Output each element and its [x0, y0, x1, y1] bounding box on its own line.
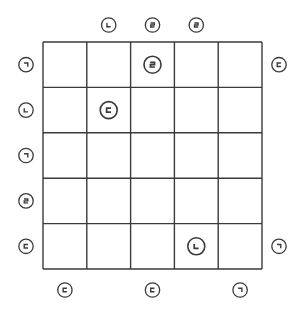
grid-cell-r5-c3[interactable] [132, 225, 174, 268]
grid-cell-r2-c1[interactable] [44, 88, 86, 131]
grid-cell-r4-c4[interactable] [175, 179, 217, 222]
grid-cell-r2-c4[interactable] [175, 88, 217, 131]
grid-cell-r1-c1[interactable] [44, 43, 86, 86]
cell-clue-rieul-icon: ㄹ [144, 56, 161, 73]
grid-cell-r3-c1[interactable] [44, 134, 86, 177]
grid-cell-r4-c1[interactable] [44, 179, 86, 222]
right-clue-digeut-icon: ㄷ [272, 57, 286, 71]
cell-clue-digeut-icon: ㄷ [100, 102, 117, 119]
left-clue-giyeok-icon: ㄱ [19, 57, 33, 71]
left-clue-digeut-icon: ㄷ [19, 239, 33, 253]
left-clue-nieun-icon: ㄴ [19, 103, 33, 117]
puzzle-board: ㄹㄷㄴㄴㄹㄹㄱㄴㄱㄹㄷㄷㄱㄷㄷㄱ [0, 0, 306, 316]
bottom-clue-digeut-icon: ㄷ [58, 283, 72, 297]
bottom-clue-giyeok-icon: ㄱ [233, 283, 247, 297]
grid-cell-r2-c3[interactable] [132, 88, 174, 131]
grid-cell-r5-c2[interactable] [88, 225, 130, 268]
grid-cell-r5-c5[interactable] [219, 225, 261, 268]
right-clue-giyeok-icon: ㄱ [272, 239, 286, 253]
left-clue-giyeok-icon: ㄱ [19, 148, 33, 162]
grid-cell-r4-c2[interactable] [88, 179, 130, 222]
grid-cell-r3-c5[interactable] [219, 134, 261, 177]
grid-cell-r1-c5[interactable] [219, 43, 261, 86]
grid-cell-r5-c1[interactable] [44, 225, 86, 268]
grid-cell-r3-c3[interactable] [132, 134, 174, 177]
bottom-clue-digeut-icon: ㄷ [145, 283, 159, 297]
grid-cell-r4-c5[interactable] [219, 179, 261, 222]
top-clue-rieul-icon: ㄹ [145, 18, 159, 32]
grid-cell-r1-c2[interactable] [88, 43, 130, 86]
grid-cell-r3-c4[interactable] [175, 134, 217, 177]
grid-cell-r1-c4[interactable] [175, 43, 217, 86]
top-clue-rieul-icon: ㄹ [189, 18, 203, 32]
grid-cell-r4-c3[interactable] [132, 179, 174, 222]
grid-cell-layer[interactable] [44, 43, 261, 268]
cell-clue-nieun-icon: ㄴ [188, 238, 205, 255]
top-clue-nieun-icon: ㄴ [102, 18, 116, 32]
grid-cell-r2-c5[interactable] [219, 88, 261, 131]
left-clue-rieul-icon: ㄹ [19, 194, 33, 208]
grid-cell-r3-c2[interactable] [88, 134, 130, 177]
